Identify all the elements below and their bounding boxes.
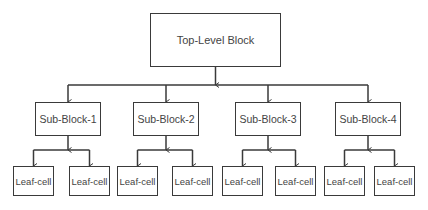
leaf-cell-label: Leaf-cell — [278, 176, 314, 187]
leaf-cell-label: Leaf-cell — [377, 176, 413, 187]
sub-block-3: Sub-Block-3 — [235, 102, 301, 136]
top-level-block: Top-Level Block — [150, 13, 281, 67]
leaf-cell-label: Leaf-cell — [120, 176, 156, 187]
leaf-cell: Leaf-cell — [117, 166, 158, 196]
sub-block-label: Sub-Block-4 — [339, 113, 396, 125]
leaf-cell-label: Leaf-cell — [16, 176, 52, 187]
sub-block-1: Sub-Block-1 — [35, 102, 101, 136]
leaf-cell-label: Leaf-cell — [72, 176, 108, 187]
leaf-cell-label: Leaf-cell — [175, 176, 211, 187]
sub-block-label: Sub-Block-1 — [39, 113, 96, 125]
sub-block-4: Sub-Block-4 — [335, 102, 401, 136]
leaf-cell: Leaf-cell — [374, 166, 415, 196]
leaf-cell: Leaf-cell — [69, 166, 110, 196]
sub-block-label: Sub-Block-3 — [239, 113, 296, 125]
hierarchy-diagram: Top-Level Block Sub-Block-1 Sub-Block-2 … — [0, 0, 428, 210]
leaf-cell-label: Leaf-cell — [225, 176, 261, 187]
leaf-cell: Leaf-cell — [13, 166, 54, 196]
leaf-cell: Leaf-cell — [222, 166, 263, 196]
sub-block-label: Sub-Block-2 — [137, 113, 194, 125]
leaf-cell-label: Leaf-cell — [327, 176, 363, 187]
leaf-cell: Leaf-cell — [172, 166, 213, 196]
leaf-cell: Leaf-cell — [275, 166, 316, 196]
leaf-cell: Leaf-cell — [324, 166, 365, 196]
sub-block-2: Sub-Block-2 — [133, 102, 199, 136]
top-level-block-label: Top-Level Block — [177, 34, 255, 46]
